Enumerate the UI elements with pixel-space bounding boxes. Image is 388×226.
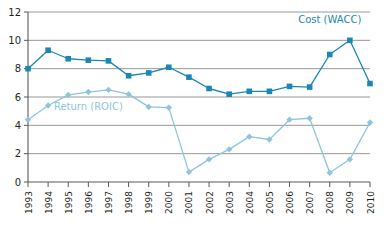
data-point-marker (206, 156, 212, 162)
data-point-marker (146, 70, 152, 76)
x-tick-label: 2000 (164, 191, 174, 214)
y-tick-label: 0 (15, 177, 21, 188)
series-cost-wacc (25, 38, 373, 97)
chart-canvas: 024681012 199319941995199619971998199920… (0, 0, 388, 226)
x-tick-label: 2002 (205, 191, 215, 214)
cost-label: Cost (WACC) (298, 14, 361, 25)
x-tick-label: 1993 (24, 191, 34, 214)
x-tick-label: 2006 (285, 191, 295, 214)
data-point-marker (85, 89, 91, 95)
x-tick-label: 2001 (184, 191, 194, 214)
data-point-marker (306, 115, 312, 121)
data-point-marker (25, 66, 31, 72)
x-tick-label: 1996 (84, 191, 94, 214)
y-tick-label: 4 (15, 120, 21, 131)
y-tick-marks-group (24, 12, 28, 182)
x-tick-label: 2003 (225, 191, 235, 214)
x-tick-label: 1994 (44, 191, 54, 214)
data-point-marker (146, 104, 152, 110)
data-point-marker (307, 84, 313, 90)
data-point-marker (246, 89, 252, 95)
data-point-marker (125, 91, 131, 97)
x-tick-marks-group (28, 182, 370, 187)
data-point-marker (206, 86, 212, 92)
x-tick-label: 1995 (64, 191, 74, 214)
data-point-marker (65, 56, 71, 62)
x-tick-labels-group: 1993199419951996199719981999200020012002… (24, 191, 376, 214)
data-point-marker (86, 57, 92, 63)
data-point-marker (367, 119, 373, 125)
data-point-marker (126, 73, 132, 79)
y-tick-label: 8 (15, 63, 21, 74)
x-tick-label: 2010 (366, 191, 376, 214)
y-tick-label: 10 (8, 35, 21, 46)
x-tick-label: 1997 (104, 191, 114, 214)
y-tick-label: 6 (15, 92, 21, 103)
data-point-marker (287, 84, 293, 90)
x-tick-label: 1999 (144, 191, 154, 214)
series-return-roic (25, 87, 373, 176)
data-point-marker (45, 47, 51, 53)
x-tick-label: 2004 (245, 191, 255, 214)
x-tick-label: 2005 (265, 191, 275, 214)
y-tick-label: 12 (8, 7, 21, 18)
x-tick-label: 2007 (305, 191, 315, 214)
series-line (28, 40, 370, 94)
data-point-marker (166, 64, 172, 70)
x-tick-label: 2008 (325, 191, 335, 214)
data-point-marker (166, 104, 172, 110)
data-point-marker (226, 146, 232, 152)
data-point-marker (367, 81, 373, 87)
x-tick-label: 2009 (345, 191, 355, 214)
data-point-marker (226, 91, 232, 97)
data-point-marker (327, 52, 333, 58)
data-point-marker (267, 89, 273, 95)
data-point-marker (347, 38, 353, 44)
x-tick-label: 1998 (124, 191, 134, 214)
data-point-marker (246, 133, 252, 139)
data-point-marker (106, 58, 112, 64)
series-annotations-group: Cost (WACC)Return (ROIC) (54, 14, 362, 112)
data-point-marker (105, 87, 111, 93)
roic-label: Return (ROIC) (54, 101, 123, 112)
y-tick-labels-group: 024681012 (8, 7, 21, 188)
data-point-marker (186, 74, 192, 80)
data-point-marker (186, 169, 192, 175)
y-tick-label: 2 (15, 148, 21, 159)
chart-container: 024681012 199319941995199619971998199920… (0, 0, 388, 226)
